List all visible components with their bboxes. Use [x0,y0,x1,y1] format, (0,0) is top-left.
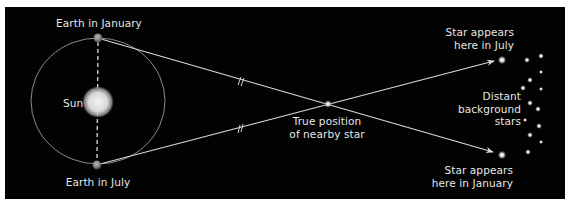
label-background-line3: stars [458,115,521,128]
background-star-icon [523,118,527,122]
break-mark-lower [238,124,243,133]
background-star-icon [525,149,531,155]
label-star-july-line2: here in July [445,39,514,52]
background-star-icon [539,87,543,91]
apparent-star-july-icon [498,56,507,65]
earth-july-icon [93,161,102,170]
nearby-star-icon [324,100,332,108]
label-star-july: Star appears here in July [445,26,514,51]
label-earth-january: Earth in January [56,17,142,30]
label-true-position-line2: of nearby star [289,128,364,141]
label-background-stars: Distant background stars [458,90,521,128]
background-star-icon [539,140,543,144]
label-background-line1: Distant [458,90,521,103]
background-stars [520,53,544,155]
label-star-july-line1: Star appears [445,26,514,39]
label-star-january-line1: Star appears [432,164,513,177]
background-star-icon [535,106,541,112]
earth-january-icon [94,34,103,43]
background-star-icon [527,77,533,83]
background-star-icon [539,70,543,74]
background-star-icon [538,53,544,59]
background-star-icon [527,100,533,106]
label-true-position-line1: True position [289,115,364,128]
label-star-january-line2: here in January [432,177,513,190]
label-star-january: Star appears here in January [432,164,513,189]
label-earth-july: Earth in July [66,176,131,189]
background-star-icon [527,132,533,138]
sightline-july [100,61,494,164]
label-sun: Sun [63,97,83,110]
sun-icon [82,86,114,118]
label-true-position: True position of nearby star [289,115,364,140]
background-star-icon [524,57,530,63]
apparent-star-january-icon [498,151,507,160]
label-background-line2: background [458,103,521,116]
background-star-icon [536,123,542,129]
